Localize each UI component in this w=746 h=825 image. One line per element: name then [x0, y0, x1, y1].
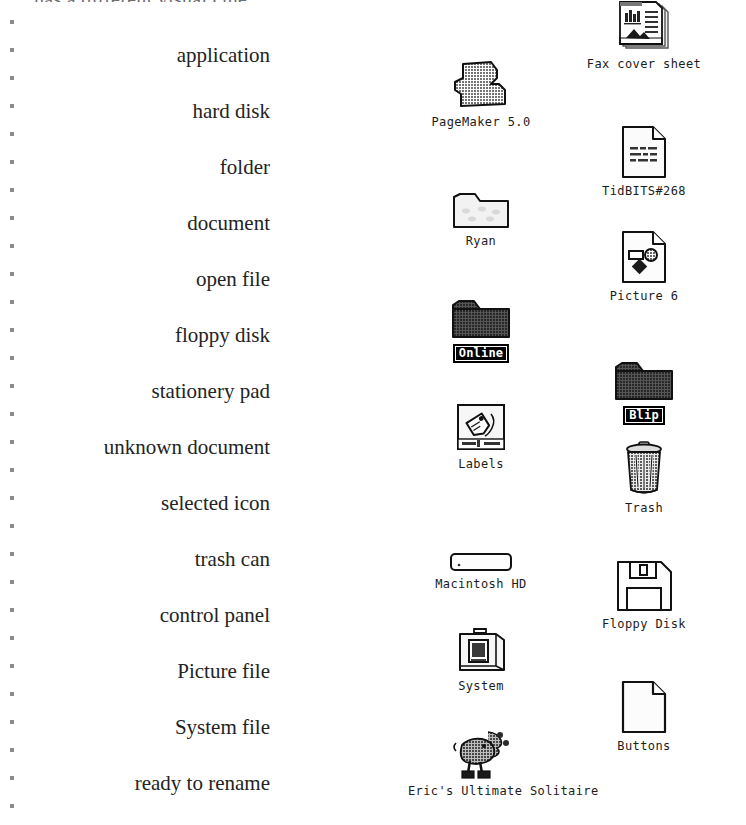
icon-type-label: document — [20, 213, 270, 234]
icon-type-label: unknown document — [20, 437, 270, 458]
icon-type-label: open file — [20, 269, 270, 290]
margin-dot — [10, 720, 14, 724]
margin-dot — [10, 664, 14, 668]
margin-dot — [10, 524, 14, 528]
icon-type-label: ready to rename — [20, 773, 270, 794]
desktop-icon[interactable]: System — [406, 630, 556, 694]
icon-type-label: floppy disk — [20, 325, 270, 346]
desktop-icon[interactable]: Buttons — [569, 690, 719, 754]
icon-label[interactable]: Picture 6 — [608, 289, 681, 304]
application-icon[interactable] — [406, 66, 556, 112]
margin-dot — [10, 48, 14, 52]
margin-dot — [10, 692, 14, 696]
icon-label[interactable]: Fax cover sheet — [585, 57, 703, 72]
icon-type-label: selected icon — [20, 493, 270, 514]
trash-can-icon[interactable] — [569, 452, 719, 498]
icon-label[interactable]: System — [456, 679, 506, 694]
stationery-pad-icon[interactable] — [569, 8, 719, 54]
icon-type-label: hard disk — [20, 101, 270, 122]
icon-label[interactable]: Ryan — [464, 234, 499, 249]
system-suitcase-icon[interactable] — [406, 630, 556, 676]
margin-dot — [10, 496, 14, 500]
margin-dot — [10, 776, 14, 780]
icon-label[interactable]: Floppy Disk — [600, 617, 688, 632]
icon-label[interactable]: Macintosh HD — [433, 577, 529, 592]
left-margin-dot-rail — [10, 8, 16, 820]
open-folder-selected-icon[interactable] — [569, 357, 719, 403]
desktop-icon[interactable]: Online — [406, 295, 556, 363]
icon-type-label: System file — [20, 717, 270, 738]
margin-dot — [10, 132, 14, 136]
desktop-icon[interactable]: Blip — [569, 357, 719, 425]
margin-dot — [10, 552, 14, 556]
desktop-icon[interactable]: Eric's Ultimate Solitaire — [406, 735, 556, 799]
margin-dot — [10, 384, 14, 388]
margin-dot — [10, 76, 14, 80]
desktop-icon[interactable]: TidBITS#268 — [569, 135, 719, 199]
icon-label-editing[interactable]: Blip — [623, 406, 665, 425]
margin-dot — [10, 300, 14, 304]
margin-dot — [10, 804, 14, 808]
margin-dot — [10, 216, 14, 220]
margin-dot — [10, 636, 14, 640]
icon-label[interactable]: Trash — [623, 501, 665, 516]
margin-dot — [10, 20, 14, 24]
margin-dot — [10, 328, 14, 332]
icon-type-label: control panel — [20, 605, 270, 626]
desktop-icon[interactable]: Trash — [569, 452, 719, 516]
cut-off-heading-text: has a different visual clue. — [34, 0, 334, 2]
desktop-icon[interactable]: Labels — [406, 408, 556, 472]
margin-dot — [10, 440, 14, 444]
icon-label[interactable]: Buttons — [615, 739, 672, 754]
icon-label[interactable]: Labels — [456, 457, 506, 472]
margin-dot — [10, 272, 14, 276]
margin-dot — [10, 412, 14, 416]
picture-file-icon[interactable] — [569, 240, 719, 286]
icon-type-label: folder — [20, 157, 270, 178]
unknown-document-icon[interactable] — [569, 690, 719, 736]
margin-dot — [10, 160, 14, 164]
margin-dot — [10, 244, 14, 248]
desktop-icon[interactable]: Macintosh HD — [406, 528, 556, 592]
icon-label[interactable]: Eric's Ultimate Solitaire — [406, 784, 601, 799]
open-folder-selected-icon[interactable] — [406, 295, 556, 341]
icon-type-label: Picture file — [20, 661, 270, 682]
hard-disk-icon[interactable] — [406, 528, 556, 574]
folder-icon[interactable] — [406, 185, 556, 231]
document-icon[interactable] — [569, 135, 719, 181]
desktop-icon[interactable]: PageMaker 5.0 — [406, 66, 556, 130]
floppy-disk-icon[interactable] — [569, 568, 719, 614]
icon-label[interactable]: TidBITS#268 — [600, 184, 688, 199]
margin-dot — [10, 580, 14, 584]
icon-label[interactable]: PageMaker 5.0 — [429, 115, 532, 130]
icon-type-label: application — [20, 45, 270, 66]
icon-label-editing[interactable]: Online — [453, 344, 510, 363]
margin-dot — [10, 188, 14, 192]
desktop-icon[interactable]: Picture 6 — [569, 240, 719, 304]
figure-canvas: has a different visual clue. application… — [0, 0, 746, 825]
margin-dot — [10, 468, 14, 472]
icon-type-label: stationery pad — [20, 381, 270, 402]
margin-dot — [10, 104, 14, 108]
desktop-icon[interactable]: Floppy Disk — [569, 568, 719, 632]
icon-type-label: trash can — [20, 549, 270, 570]
desktop-icon[interactable]: Ryan — [406, 185, 556, 249]
solitaire-jester-icon[interactable] — [406, 735, 556, 781]
margin-dot — [10, 608, 14, 612]
margin-dot — [10, 748, 14, 752]
margin-dot — [10, 356, 14, 360]
control-panel-icon[interactable] — [406, 408, 556, 454]
desktop-icon[interactable]: Fax cover sheet — [569, 8, 719, 72]
